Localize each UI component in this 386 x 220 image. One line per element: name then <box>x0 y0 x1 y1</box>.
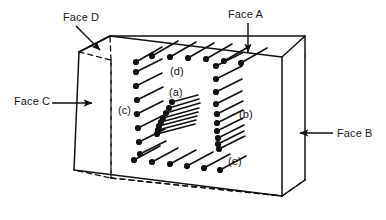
face-c-label: Face C <box>14 96 50 107</box>
hidden-chamfer-back <box>74 52 111 178</box>
front-bottom-edge <box>74 170 282 196</box>
region-b-label: (b) <box>239 109 253 120</box>
region-c-label: (c) <box>118 105 131 116</box>
figure-canvas: Face A Face B Face C Face D (a) (b) (c) … <box>0 0 386 220</box>
pin-cluster-b <box>214 53 245 151</box>
face-a-label: Face A <box>228 9 263 20</box>
face-d-arrow <box>76 26 100 50</box>
face-b-label: Face B <box>337 128 372 139</box>
top-right-fold <box>282 36 305 57</box>
region-a-label: (a) <box>169 87 183 98</box>
face-d-label: Face D <box>63 12 99 23</box>
hidden-inner-bottom <box>111 178 282 196</box>
pin-cluster-c <box>134 59 166 156</box>
hidden-vertical-back <box>110 36 111 60</box>
region-d-label: (d) <box>170 66 184 77</box>
block-diagram-svg <box>0 0 386 220</box>
region-e-label: (e) <box>228 156 242 167</box>
chamfer-left-edge <box>74 52 79 170</box>
